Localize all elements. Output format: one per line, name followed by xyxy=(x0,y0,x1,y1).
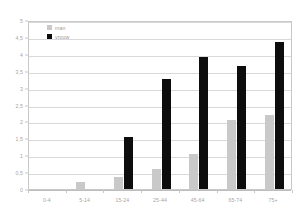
y-tick-label: 5 xyxy=(20,18,23,24)
x-tick-label: 25-44 xyxy=(153,197,167,203)
y-tick-label: 4 xyxy=(20,52,23,58)
x-tick-mark xyxy=(103,190,104,193)
x-axis: 0-45-1415-2425-4445-6465-7475+ xyxy=(28,190,292,218)
y-tick-label: 3 xyxy=(20,86,23,92)
y-tick-label: 1 xyxy=(20,153,23,159)
y-tick-label: 3,5 xyxy=(15,69,23,75)
x-tick-mark xyxy=(179,190,180,193)
bar-man-65-74 xyxy=(227,120,236,189)
bar-chart: 00,511,522,533,544,55 manvrouw 0-45-1415… xyxy=(0,0,299,218)
x-tick-label: 45-64 xyxy=(191,197,205,203)
x-tick-mark xyxy=(66,190,67,193)
bar-vrouw-75+ xyxy=(275,42,284,189)
chart-legend: manvrouw xyxy=(47,24,69,40)
legend-item-vrouw: vrouw xyxy=(47,33,69,40)
bars-layer xyxy=(29,22,291,189)
x-tick-mark xyxy=(217,190,218,193)
bar-man-75+ xyxy=(265,115,274,189)
y-tick-label: 1,5 xyxy=(15,136,23,142)
bar-vrouw-65-74 xyxy=(237,66,246,189)
legend-item-man: man xyxy=(47,24,69,31)
x-tick-label: 15-24 xyxy=(115,197,129,203)
y-tick-label: 2 xyxy=(20,119,23,125)
x-tick-label: 65-74 xyxy=(229,197,243,203)
y-tick-label: 4,5 xyxy=(15,35,23,41)
bar-vrouw-15-24 xyxy=(124,137,133,189)
x-tick-label: 5-14 xyxy=(79,197,90,203)
bar-man-5-14 xyxy=(76,182,85,189)
x-tick-mark xyxy=(141,190,142,193)
plot-area: manvrouw xyxy=(28,21,292,190)
bar-man-25-44 xyxy=(152,169,161,189)
y-tick-label: 2,5 xyxy=(15,103,23,109)
y-tick-label: 0,5 xyxy=(15,170,23,176)
bar-vrouw-45-64 xyxy=(199,57,208,189)
y-tick-label: 0 xyxy=(20,187,23,193)
bar-vrouw-25-44 xyxy=(162,79,171,189)
legend-label: man xyxy=(55,25,65,31)
y-axis: 00,511,522,533,544,55 xyxy=(0,21,28,190)
x-tick-label: 75+ xyxy=(269,197,278,203)
legend-label: vrouw xyxy=(55,34,69,40)
bar-man-15-24 xyxy=(114,177,123,189)
x-tick-mark xyxy=(28,190,29,193)
x-tick-mark xyxy=(292,190,293,193)
legend-swatch-icon xyxy=(47,25,52,30)
x-tick-label: 0-4 xyxy=(43,197,51,203)
x-tick-mark xyxy=(254,190,255,193)
legend-swatch-icon xyxy=(47,34,52,39)
bar-man-45-64 xyxy=(189,154,198,189)
